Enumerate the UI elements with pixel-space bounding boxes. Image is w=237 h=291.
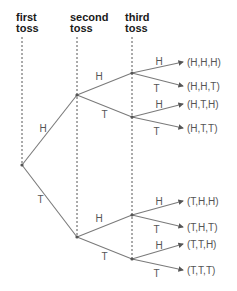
node-third-toss — [130, 257, 133, 260]
branch-label: T — [102, 109, 108, 120]
outcome-label: (T,T,T) — [187, 265, 215, 276]
outcome-label: (H,T,H) — [187, 99, 219, 110]
outcome-label: (H,T,T) — [187, 123, 218, 134]
root-node — [20, 163, 23, 166]
branch-label: T — [154, 268, 160, 279]
outcome-label: (H,H,H) — [187, 57, 221, 68]
branch-label: T — [154, 83, 160, 94]
branch-label: T — [38, 194, 44, 205]
branch-label: T — [102, 251, 108, 262]
node-third-toss — [130, 71, 133, 74]
node-second-toss — [75, 93, 78, 96]
branch-label: H — [156, 240, 163, 251]
outcome-label: (T,H,H) — [187, 196, 219, 207]
tree-diagram: HTHTHTH(H,H,H)T(H,H,T)H(H,T,H)T(H,T,T)H(… — [0, 0, 237, 291]
branch-label: T — [154, 224, 160, 235]
outcome-label: (T,H,T) — [187, 222, 218, 233]
outcome-label: (T,T,H) — [187, 239, 216, 250]
branch-second-h — [77, 73, 132, 95]
branch-first-h — [22, 95, 77, 165]
branch-label: H — [96, 213, 103, 224]
node-third-toss — [130, 115, 133, 118]
node-third-toss — [130, 213, 133, 216]
branch-second-h — [77, 215, 132, 237]
node-second-toss — [75, 235, 78, 238]
outcome-label: (H,H,T) — [187, 81, 220, 92]
branch-label: T — [154, 126, 160, 137]
branch-label: H — [156, 56, 163, 67]
branch-label: H — [156, 99, 163, 110]
branch-first-t — [22, 165, 77, 237]
branch-label: H — [40, 123, 47, 134]
branch-label: H — [156, 196, 163, 207]
branch-label: H — [96, 71, 103, 82]
